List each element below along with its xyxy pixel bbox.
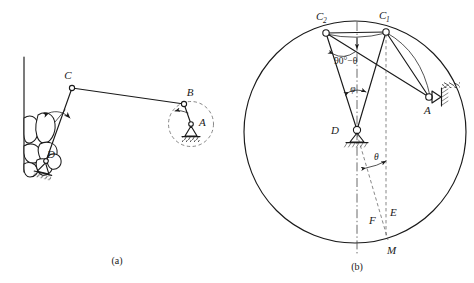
label-C1-subscript: 1 — [386, 15, 390, 24]
label-F-b: F — [368, 214, 376, 226]
label-C1-b: C 1 — [379, 9, 390, 24]
diagram-b-group: C 2 C 1 90°−θ φ θ D A E F M (b) — [244, 9, 466, 273]
figure-canvas: C B A D (a) — [0, 0, 474, 283]
label-M-b: M — [386, 244, 397, 256]
crushed-material — [24, 113, 61, 177]
label-theta: θ — [374, 152, 379, 162]
joint-C1 — [383, 29, 389, 35]
label-D-b: D — [330, 124, 339, 136]
line-C1-A — [386, 32, 429, 97]
joint-B — [181, 101, 186, 106]
fixed-pivot-D-b — [345, 126, 369, 147]
link-AB — [184, 104, 191, 124]
line-D-C1 — [357, 32, 386, 130]
fixed-pivot-A — [182, 122, 200, 142]
label-90-minus-theta: 90°−θ — [334, 56, 358, 66]
label-C-a: C — [64, 69, 72, 81]
joint-C — [69, 85, 74, 90]
chord-arc-C2-C1 — [326, 33, 386, 37]
link-BC — [72, 88, 184, 104]
label-phi: φ — [350, 84, 355, 94]
label-A-b: A — [423, 104, 431, 116]
angle-90-minus-theta-marker — [333, 38, 357, 57]
angle-theta-marker — [366, 161, 386, 168]
diagram-a-group: C B A D (a) — [24, 57, 214, 267]
label-C2-subscript: 2 — [323, 16, 327, 25]
figure-root: C B A D (a) — [0, 0, 474, 283]
caption-b: (b) — [351, 261, 363, 273]
chord-C2-C1 — [326, 32, 386, 33]
fixed-pivot-A-b — [426, 82, 460, 106]
label-A-a: A — [198, 116, 206, 128]
joint-C2 — [323, 30, 329, 36]
label-B-a: B — [187, 86, 194, 98]
line-D-C2 — [326, 33, 357, 130]
label-C2-b: C 2 — [316, 10, 327, 25]
label-D-a: D — [46, 148, 55, 160]
caption-a: (a) — [111, 255, 122, 267]
label-E-b: E — [389, 206, 397, 218]
